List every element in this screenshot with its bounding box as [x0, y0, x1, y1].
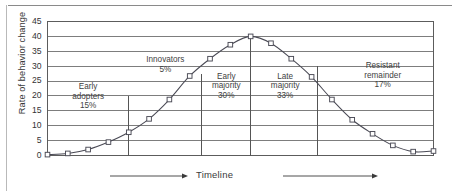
y-axis-tick-label: 15 — [26, 105, 42, 115]
segment-name-line1: Late — [245, 72, 325, 82]
segment-name-line1: Resistant — [343, 61, 423, 71]
y-axis-tick-label: 40 — [26, 31, 42, 41]
segment-label-early-adopters: Early adopters 15% — [48, 82, 128, 111]
segment-percent: 17% — [343, 80, 423, 90]
segment-label-late-majority: Late majority 33% — [245, 72, 325, 101]
y-axis-tick-label: 30 — [26, 61, 42, 71]
x-axis-title: Timeline — [196, 169, 233, 180]
y-axis-tick-label: 25 — [26, 75, 42, 85]
segment-name-line2: remainder — [343, 71, 423, 81]
chart-figure: Rate of behavior change 0510152025303540… — [0, 0, 454, 194]
segment-name-line1: Innovators — [125, 55, 205, 65]
segment-name-line2: majority — [245, 81, 325, 91]
y-axis-tick-label: 5 — [26, 135, 42, 145]
timeline-arrows — [110, 173, 378, 178]
segment-percent: 33% — [245, 91, 325, 101]
segment-name-line2: adopters — [48, 92, 128, 102]
y-axis-tick-label: 20 — [26, 90, 42, 100]
segment-name-line1: Early — [48, 82, 128, 92]
segment-percent: 15% — [48, 101, 128, 111]
y-axis-tick-label: 10 — [26, 120, 42, 130]
y-axis-tick-label: 35 — [26, 46, 42, 56]
y-axis-tick-label: 0 — [26, 150, 42, 160]
segment-label-resistant-remainder: Resistant remainder 17% — [343, 61, 423, 90]
y-axis-tick-label: 45 — [26, 16, 42, 26]
